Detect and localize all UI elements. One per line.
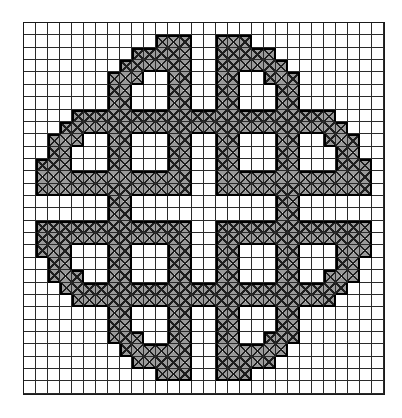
stitch-cell bbox=[228, 270, 240, 282]
grid-cell bbox=[96, 23, 108, 35]
grid-cell bbox=[300, 307, 312, 319]
grid-cell bbox=[24, 171, 36, 183]
stitch-cell bbox=[96, 283, 108, 295]
grid-cell bbox=[24, 344, 36, 356]
grid-cell bbox=[324, 344, 336, 356]
grid-cell bbox=[372, 85, 384, 97]
grid-cell bbox=[72, 147, 84, 159]
stitch-cell bbox=[168, 48, 180, 60]
grid-cell bbox=[48, 85, 60, 97]
grid-cell bbox=[72, 85, 84, 97]
stitch-cell bbox=[180, 357, 192, 369]
stitch-cell bbox=[276, 184, 288, 196]
stitch-cell bbox=[324, 283, 336, 295]
stitch-cell bbox=[216, 221, 228, 233]
stitch-cell bbox=[180, 369, 192, 381]
grid-cell bbox=[192, 381, 204, 393]
stitch-cell bbox=[180, 221, 192, 233]
grid-cell bbox=[372, 72, 384, 84]
stitch-cell bbox=[348, 233, 360, 245]
grid-cell bbox=[276, 381, 288, 393]
stitch-cell bbox=[84, 110, 96, 122]
grid-cell bbox=[372, 97, 384, 109]
stitch-cell bbox=[216, 159, 228, 171]
stitch-cell bbox=[228, 134, 240, 146]
grid-cell bbox=[192, 85, 204, 97]
stitch-cell bbox=[252, 171, 264, 183]
grid-cell bbox=[324, 35, 336, 47]
stitch-cell bbox=[60, 171, 72, 183]
grid-cell bbox=[336, 344, 348, 356]
stitch-cell bbox=[276, 97, 288, 109]
grid-cell bbox=[96, 85, 108, 97]
grid-cell bbox=[348, 295, 360, 307]
grid-cell bbox=[60, 295, 72, 307]
stitch-cell bbox=[120, 134, 132, 146]
stitch-cell bbox=[300, 233, 312, 245]
grid-cell bbox=[204, 320, 216, 332]
stitch-cell bbox=[168, 159, 180, 171]
stitch-cell bbox=[336, 258, 348, 270]
grid-cell bbox=[336, 48, 348, 60]
grid-cell bbox=[372, 283, 384, 295]
grid-cell bbox=[300, 357, 312, 369]
grid-cell bbox=[108, 35, 120, 47]
grid-cell bbox=[72, 320, 84, 332]
grid-cell bbox=[24, 48, 36, 60]
grid-cell bbox=[180, 381, 192, 393]
grid-cell bbox=[156, 258, 168, 270]
grid-cell bbox=[336, 295, 348, 307]
stitch-cell bbox=[336, 147, 348, 159]
stitch-cell bbox=[84, 283, 96, 295]
stitch-cell bbox=[120, 344, 132, 356]
stitch-cell bbox=[108, 196, 120, 208]
grid-cell bbox=[132, 270, 144, 282]
grid-cell bbox=[312, 97, 324, 109]
stitch-cell bbox=[168, 320, 180, 332]
grid-cell bbox=[84, 270, 96, 282]
grid-cell bbox=[324, 97, 336, 109]
stitch-cell bbox=[348, 159, 360, 171]
grid-cell bbox=[336, 85, 348, 97]
grid-cell bbox=[336, 208, 348, 220]
grid-cell bbox=[192, 369, 204, 381]
stitch-cell bbox=[264, 60, 276, 72]
grid-cell bbox=[372, 270, 384, 282]
grid-cell bbox=[144, 85, 156, 97]
grid-cell bbox=[84, 369, 96, 381]
grid-cell bbox=[372, 196, 384, 208]
grid-cell bbox=[348, 357, 360, 369]
stitch-cell bbox=[120, 196, 132, 208]
stitch-cell bbox=[144, 171, 156, 183]
grid-cell bbox=[252, 23, 264, 35]
grid-cell bbox=[132, 147, 144, 159]
grid-cell bbox=[240, 381, 252, 393]
grid-cell bbox=[324, 23, 336, 35]
grid-cell bbox=[360, 270, 372, 282]
grid-cell bbox=[36, 295, 48, 307]
grid-cell bbox=[204, 159, 216, 171]
grid-cell bbox=[24, 320, 36, 332]
stitch-cell bbox=[144, 357, 156, 369]
grid-cell bbox=[72, 381, 84, 393]
stitch-cell bbox=[240, 184, 252, 196]
grid-cell bbox=[360, 208, 372, 220]
stitch-cell bbox=[144, 60, 156, 72]
grid-cell bbox=[264, 369, 276, 381]
stitch-cell bbox=[276, 171, 288, 183]
grid-cell bbox=[36, 48, 48, 60]
grid-cell bbox=[276, 35, 288, 47]
stitch-cell bbox=[324, 221, 336, 233]
stitch-cell bbox=[72, 270, 84, 282]
stitch-cell bbox=[180, 258, 192, 270]
grid-cell bbox=[84, 134, 96, 146]
stitch-cell bbox=[60, 122, 72, 134]
grid-cell bbox=[48, 35, 60, 47]
stitch-cell bbox=[336, 171, 348, 183]
stitch-cell bbox=[336, 283, 348, 295]
stitch-cell bbox=[120, 159, 132, 171]
grid-cell bbox=[96, 208, 108, 220]
stitch-cell bbox=[204, 295, 216, 307]
grid-cell bbox=[372, 369, 384, 381]
grid-cell bbox=[36, 23, 48, 35]
